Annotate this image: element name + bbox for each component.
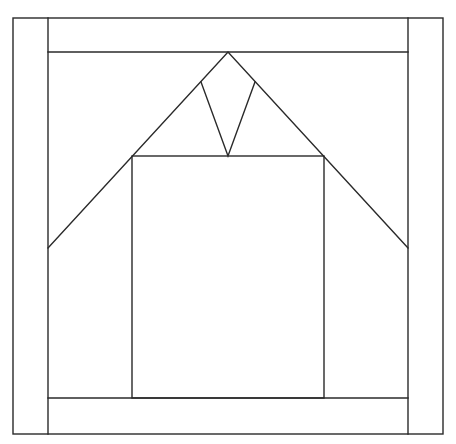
background bbox=[0, 0, 456, 444]
diagram-svg bbox=[0, 0, 456, 444]
quilt-block-diagram bbox=[0, 0, 456, 444]
